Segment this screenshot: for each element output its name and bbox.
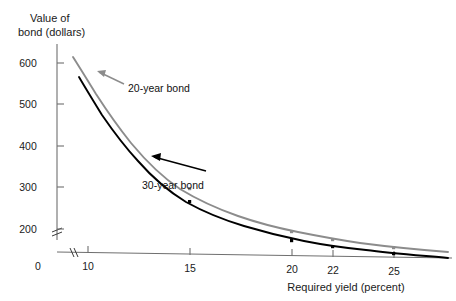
data-point-30y-22 <box>331 245 334 248</box>
series-label-20-year: 20-year bond <box>128 82 190 94</box>
bond-value-chart: Value of bond (dollars) 600 500 400 300 … <box>0 0 456 301</box>
data-point-20y-25 <box>392 246 395 249</box>
data-point-30y-25 <box>392 252 395 255</box>
y-axis-ticks <box>57 63 64 229</box>
x-tick-label-25: 25 <box>388 265 400 277</box>
data-point-30y-20 <box>290 239 293 242</box>
leader-line-30-year <box>154 157 206 171</box>
annotation-30-year: 30-year bond <box>142 153 206 191</box>
x-tick-label-15: 15 <box>184 262 196 274</box>
origin-label: 0 <box>35 260 41 272</box>
data-point-30y-15 <box>188 200 191 203</box>
y-tick-label-500: 500 <box>19 98 37 110</box>
x-axis-title: Required yield (percent) <box>287 281 404 293</box>
chart-svg: Value of bond (dollars) 600 500 400 300 … <box>0 0 456 301</box>
y-tick-label-200: 200 <box>19 223 37 235</box>
y-axis-title-line2: bond (dollars) <box>18 26 85 38</box>
x-tick-label-10: 10 <box>82 260 94 272</box>
x-tick-label-20: 20 <box>286 263 298 275</box>
annotation-20-year: 20-year bond <box>97 70 190 94</box>
series-line-30-year <box>79 77 448 258</box>
arrowhead-20-year-icon <box>97 70 106 77</box>
data-point-20y-22 <box>331 238 334 241</box>
y-axis-title-line1: Value of <box>30 12 70 24</box>
data-point-20y-20 <box>290 230 293 233</box>
y-tick-label-400: 400 <box>19 140 37 152</box>
series-label-30-year: 30-year bond <box>142 179 204 191</box>
arrowhead-30-year-icon <box>151 153 161 161</box>
x-tick-label-22: 22 <box>327 264 339 276</box>
y-tick-label-600: 600 <box>19 57 37 69</box>
y-tick-label-300: 300 <box>19 181 37 193</box>
